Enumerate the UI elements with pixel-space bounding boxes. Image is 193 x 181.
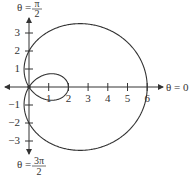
x-tick-label: 4 — [105, 92, 111, 104]
theta-3pi-over-2-label: θ = — [17, 158, 31, 170]
origin-dot — [27, 85, 31, 89]
x-tick-label: 3 — [85, 92, 91, 104]
x-tick-label: 6 — [144, 92, 150, 104]
y-tick-label: −1 — [8, 98, 20, 110]
x-tick-label: 2 — [66, 92, 72, 104]
y-tick-label: −2 — [8, 116, 20, 128]
x-tick-label: 5 — [125, 92, 131, 104]
y-tick-label: 1 — [15, 62, 21, 74]
theta-bottom-numerator: 3π — [34, 155, 44, 166]
theta-zero-label: θ = 0 — [166, 81, 189, 93]
theta-bottom-denominator: 2 — [37, 166, 42, 177]
y-tick-label: 2 — [15, 44, 21, 56]
y-tick-label: −3 — [8, 134, 20, 146]
y-tick-label: 3 — [15, 26, 21, 38]
theta-pi-over-2-label: θ = — [17, 1, 31, 13]
theta-top-denominator: 2 — [35, 8, 40, 19]
x-tick-label: 1 — [46, 92, 52, 104]
polar-graph: 1 2 3 4 5 6 1 2 3 −1 −2 −3 θ = π 2 θ = 0… — [0, 0, 193, 181]
